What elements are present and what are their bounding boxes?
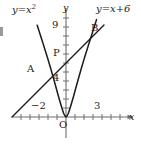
edge-mark [0, 27, 3, 36]
x-tick-label-3: 3 [94, 101, 100, 111]
x-axis-label: x [129, 112, 134, 122]
y-axis-label: y [63, 3, 68, 13]
parabola [37, 20, 96, 117]
parabola-equation-label: y=x2 [12, 4, 36, 15]
point-b-label: B [91, 23, 98, 33]
y-tick-label-4: 4 [53, 73, 59, 83]
line-equation-label: y=x+6 [96, 4, 130, 14]
graph-figure: y=x2 y=x+6 y x 9 4 −2 3 O A B P [0, 0, 141, 144]
origin-label: O [59, 120, 67, 130]
point-p-label: P [53, 48, 60, 58]
graph-canvas [0, 0, 141, 144]
y-tick-label-9: 9 [52, 20, 58, 30]
straight-line [12, 25, 104, 117]
point-a-label: A [27, 64, 34, 74]
x-tick-label-neg2: −2 [31, 101, 46, 111]
